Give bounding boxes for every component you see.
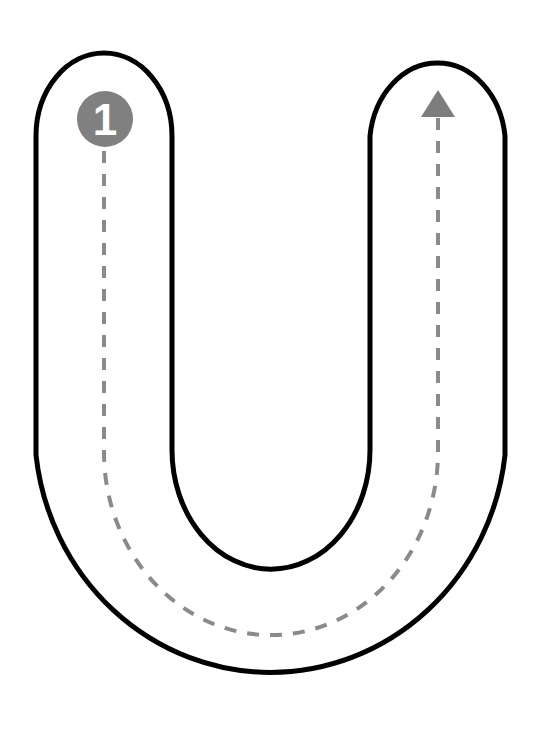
step-1-marker-label: 1 xyxy=(93,95,117,144)
direction-arrowhead-icon xyxy=(421,90,455,117)
letter-tracing-graphic: 1 xyxy=(0,0,541,743)
dashed-guide-path xyxy=(104,110,438,635)
tracing-worksheet-canvas: 1 xyxy=(0,0,541,743)
